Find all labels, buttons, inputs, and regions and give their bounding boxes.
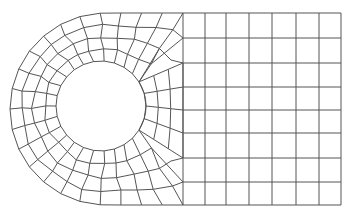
finite-element-mesh — [0, 0, 352, 216]
mesh-edge — [173, 182, 184, 186]
mesh-edge — [160, 158, 184, 168]
hole-boundary — [56, 61, 139, 151]
mesh-figure — [0, 0, 352, 216]
mesh-radial-edge — [100, 13, 104, 61]
mesh-radial-edge — [61, 148, 84, 194]
mesh-edge — [159, 48, 183, 63]
mesh-transition-edge — [144, 87, 183, 93]
mesh-transition-edge — [146, 106, 183, 110]
mesh-transition-edge — [139, 82, 146, 130]
outer-boundary — [10, 13, 183, 205]
mesh-edge — [152, 148, 184, 182]
mesh-radial-edge — [10, 106, 56, 109]
mesh-ring-edge — [32, 38, 160, 178]
mesh-transition-edge — [144, 119, 183, 133]
mesh-transition-edge — [139, 130, 183, 158]
mesh-edge — [173, 30, 183, 38]
mesh-edge — [151, 38, 183, 64]
